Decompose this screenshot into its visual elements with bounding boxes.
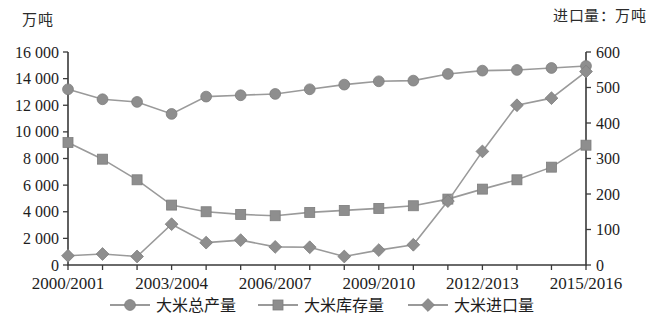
- legend-marker-square: [273, 300, 283, 310]
- data-point: [477, 184, 487, 194]
- chart-canvas: 02 0004 0006 0008 00010 00012 00014 0001…: [0, 0, 654, 321]
- data-point: [305, 207, 315, 217]
- x-axis-tick-label: 2012/2013: [446, 274, 519, 293]
- data-point: [132, 175, 142, 185]
- data-point: [338, 250, 351, 263]
- legend-label: 大米总产量: [156, 297, 236, 314]
- y2-axis-tick-label: 200: [596, 186, 620, 203]
- data-point: [339, 205, 349, 215]
- legend-label: 大米库存量: [304, 297, 384, 314]
- data-point: [270, 211, 280, 221]
- data-point: [408, 201, 418, 211]
- y-axis-tick-label: 16 000: [15, 44, 59, 61]
- y2-axis-tick-label: 100: [596, 221, 620, 238]
- data-point: [201, 91, 212, 102]
- legend-label: 大米进口量: [454, 297, 534, 314]
- x-axis-tick-label: 2009/2010: [342, 274, 415, 293]
- data-point: [63, 84, 74, 95]
- data-point: [62, 249, 75, 262]
- data-point: [96, 248, 109, 261]
- data-point: [269, 240, 282, 253]
- x-axis-tick-label: 2003/2004: [135, 274, 208, 293]
- y-axis-tick-label: 10 000: [15, 123, 59, 140]
- data-point: [545, 92, 558, 105]
- data-point: [511, 99, 524, 112]
- x-axis-tick-label: 2006/2007: [239, 274, 312, 293]
- y-axis-tick-label: 6 000: [23, 177, 59, 194]
- data-point: [63, 138, 73, 148]
- y2-axis-tick-label: 0: [596, 257, 604, 274]
- data-point: [581, 140, 591, 150]
- legend-marker-circle: [125, 300, 136, 311]
- data-point: [372, 244, 385, 257]
- data-point: [201, 207, 211, 217]
- y-axis-tick-label: 8 000: [23, 150, 59, 167]
- data-point: [476, 145, 489, 158]
- data-point: [512, 175, 522, 185]
- data-point: [234, 234, 247, 247]
- y2-axis-tick-label: 500: [596, 79, 620, 96]
- data-point: [442, 69, 453, 80]
- data-point: [408, 75, 419, 86]
- axis-frame: [68, 52, 586, 265]
- data-point: [270, 89, 281, 100]
- y2-axis-tick-label: 300: [596, 150, 620, 167]
- y-axis-tick-label: 12 000: [15, 97, 59, 114]
- data-point: [374, 203, 384, 213]
- y-axis-tick-label: 2 000: [23, 230, 59, 247]
- series-line: [68, 143, 586, 216]
- y-axis-tick-label: 0: [51, 257, 59, 274]
- data-point: [166, 109, 177, 120]
- series-line: [68, 72, 586, 257]
- y2-axis-tick-label: 600: [596, 44, 620, 61]
- data-point: [477, 65, 488, 76]
- x-axis-tick-label: 2015/2016: [550, 274, 623, 293]
- data-point: [200, 236, 213, 249]
- y-axis-tick-label: 14 000: [15, 70, 59, 87]
- data-point: [132, 97, 143, 108]
- data-point: [97, 94, 108, 105]
- data-point: [339, 79, 350, 90]
- data-point: [373, 76, 384, 87]
- data-point: [304, 84, 315, 95]
- data-point: [546, 162, 556, 172]
- x-axis-tick-label: 2000/2001: [32, 274, 105, 293]
- plot-area: 02 0004 0006 0008 00010 00012 00014 0001…: [0, 0, 654, 321]
- data-point: [236, 209, 246, 219]
- y2-axis-tick-label: 400: [596, 115, 620, 132]
- data-point: [303, 241, 316, 254]
- data-point: [98, 154, 108, 164]
- series-line: [68, 66, 586, 114]
- legend-marker-diamond: [422, 299, 435, 312]
- y-axis-tick-label: 4 000: [23, 203, 59, 220]
- data-point: [512, 65, 523, 76]
- rice-supply-chart: 万吨 进口量：万吨 02 0004 0006 0008 00010 00012 …: [0, 0, 654, 321]
- data-point: [235, 90, 246, 101]
- data-point: [546, 63, 557, 74]
- data-point: [167, 200, 177, 210]
